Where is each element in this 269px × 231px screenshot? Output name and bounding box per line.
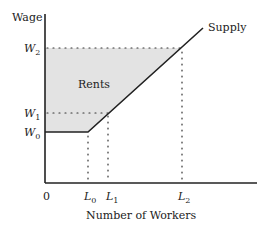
x-axis-label: Number of Workers xyxy=(86,209,197,222)
origin-label: 0 xyxy=(43,190,50,203)
tick-w1: W1 xyxy=(24,107,40,122)
tick-l0: L0 xyxy=(83,190,96,205)
tick-l1: L1 xyxy=(105,190,118,205)
tick-w2: W2 xyxy=(24,42,40,57)
labor-supply-rents-diagram: Wage Supply Rents 0 Number of Workers W2… xyxy=(0,0,269,231)
curve-label: Supply xyxy=(208,21,247,34)
rents-region xyxy=(45,48,182,132)
tick-w0: W0 xyxy=(24,126,40,141)
tick-l2: L2 xyxy=(177,190,190,205)
y-axis-label: Wage xyxy=(12,11,42,24)
region-label: Rents xyxy=(78,78,110,91)
